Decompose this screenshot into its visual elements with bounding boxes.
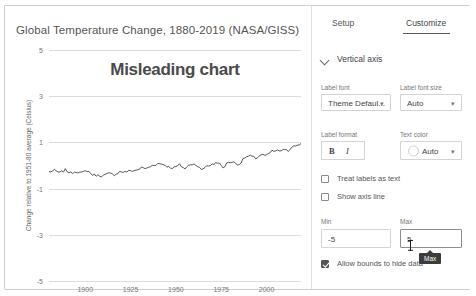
x-axis-tick-label: 2000 <box>259 286 275 293</box>
chevron-down-icon: ▾ <box>380 99 384 106</box>
chart-editor-panel: Setup Customize Vertical axis Label font… <box>311 6 470 289</box>
y-axis-tick-label: 3 <box>39 93 43 100</box>
x-axis-tick-label: 1975 <box>213 286 229 293</box>
series-path <box>49 144 301 177</box>
y-axis-tick-label: -3 <box>37 231 43 238</box>
max-tooltip: Max <box>419 253 441 264</box>
checkbox-icon <box>321 260 329 268</box>
chart-title: Global Temperature Change, 1880-2019 (NA… <box>16 24 299 36</box>
checkbox-label: Treat labels as text <box>337 174 400 183</box>
text-color-select[interactable]: Auto ▾ <box>400 141 462 160</box>
y-axis-tick-label: 5 <box>39 47 43 54</box>
x-axis-tick-label: 1900 <box>77 286 93 293</box>
text-color-label: Text color <box>400 131 428 138</box>
checkbox-label: Show axis line <box>337 192 385 201</box>
chart-pane: Global Temperature Change, 1880-2019 (NA… <box>5 6 310 289</box>
tab-setup[interactable]: Setup <box>332 18 354 34</box>
label-font-size-label: Label font size <box>400 84 442 91</box>
checkbox-icon <box>321 175 329 183</box>
temperature-line <box>49 50 301 281</box>
text-color-value: Auto <box>422 146 438 155</box>
bold-button[interactable]: B <box>329 146 335 156</box>
y-axis-tick-label: -1 <box>37 185 43 192</box>
chevron-down-icon <box>320 55 329 64</box>
checkbox-label: Allow bounds to hide data <box>337 259 423 268</box>
min-value: -5 <box>328 234 335 243</box>
label-font-size-value: Auto <box>407 98 423 107</box>
x-axis-tick-label: 1950 <box>168 286 184 293</box>
screenshot-root: Global Temperature Change, 1880-2019 (NA… <box>0 0 476 296</box>
plot-area: 531-1-3-5 19001925195019752000 Misleadin… <box>49 50 301 281</box>
chevron-down-icon: ▾ <box>451 147 455 154</box>
label-font-label: Label font <box>321 84 350 91</box>
checkbox-allow-bounds-to-hide-data[interactable]: Allow bounds to hide data <box>321 259 423 268</box>
label-format-group: B I <box>321 141 365 160</box>
min-label: Min <box>321 218 331 225</box>
chevron-down-icon: ▾ <box>451 99 455 106</box>
vertical-axis-section-header[interactable]: Vertical axis <box>320 54 382 64</box>
color-swatch-icon <box>408 145 419 156</box>
section-title: Vertical axis <box>337 54 382 64</box>
label-format-label: Label format <box>321 131 357 138</box>
y-axis-tick-label: 1 <box>39 139 43 146</box>
max-label: Max <box>400 218 412 225</box>
series-container <box>49 50 301 281</box>
min-input[interactable]: -5 <box>321 229 391 248</box>
y-axis-title: Change relative to 1951-80 average (Cels… <box>25 91 32 241</box>
label-font-select[interactable]: Theme Defaul... ▾ <box>321 94 391 111</box>
checkbox-icon <box>321 193 329 201</box>
gridline <box>49 281 301 282</box>
x-axis-tick-label: 1925 <box>123 286 139 293</box>
y-axis-tick-label: -5 <box>37 278 43 285</box>
label-font-value: Theme Defaul... <box>328 98 385 107</box>
panel-tabs: Setup Customize <box>312 18 471 44</box>
text-cursor-icon <box>408 240 413 251</box>
tab-customize[interactable]: Customize <box>406 18 446 34</box>
checkbox-show-axis-line[interactable]: Show axis line <box>321 192 385 201</box>
checkbox-treat-labels-as-text[interactable]: Treat labels as text <box>321 174 400 183</box>
label-font-size-select[interactable]: Auto ▾ <box>400 94 462 111</box>
italic-button[interactable]: I <box>346 146 349 156</box>
